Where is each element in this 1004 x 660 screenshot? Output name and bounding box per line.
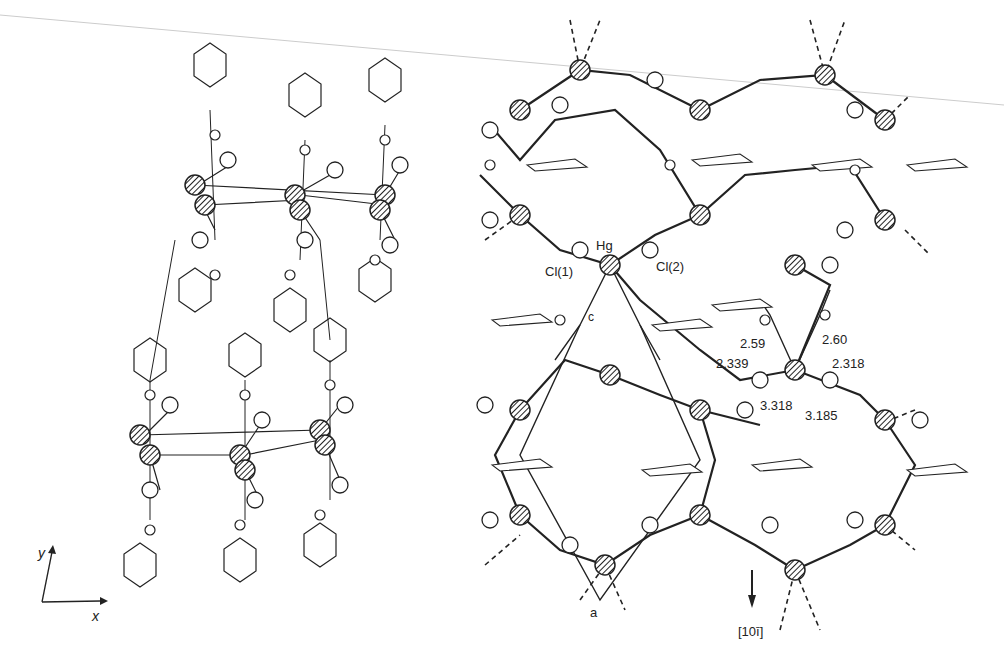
y-axis-label: y	[38, 545, 45, 561]
distance-2-59: 2.59	[740, 336, 765, 351]
x-axis-label: x	[92, 608, 99, 624]
distance-3-185: 3.185	[805, 408, 838, 423]
distance-3-318: 3.318	[760, 398, 793, 413]
direction-label: [10ī]	[738, 624, 763, 639]
cell-c-label: c	[588, 310, 594, 324]
cell-a-label: a	[590, 605, 597, 620]
left-molecular-diagram	[42, 43, 408, 605]
distance-2-318: 2.318	[832, 356, 865, 371]
right-network-diagram	[477, 20, 967, 630]
crystal-structure-drawing	[0, 0, 1004, 660]
cl2-label: Cl(2)	[656, 259, 684, 274]
hg-label: Hg	[596, 238, 613, 253]
cl1-label: Cl(1)	[545, 264, 573, 279]
distance-2-60: 2.60	[822, 332, 847, 347]
distance-2-339: 2.339	[716, 356, 749, 371]
